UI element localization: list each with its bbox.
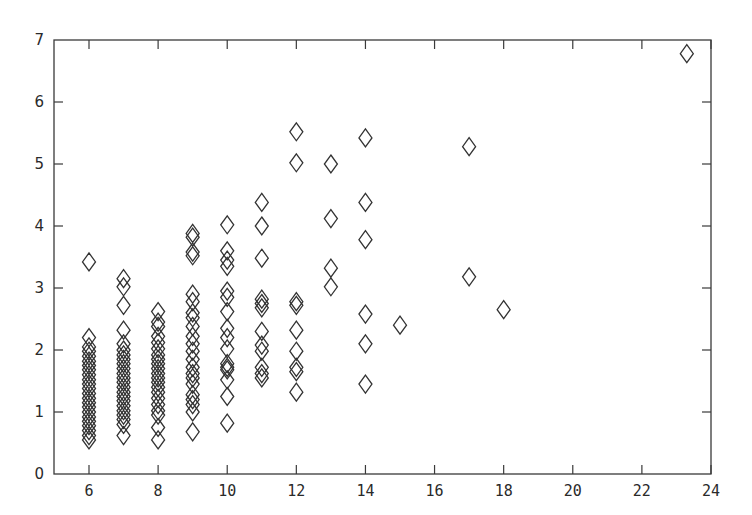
diamond-marker bbox=[359, 193, 372, 211]
diamond-marker bbox=[290, 321, 303, 339]
diamond-marker bbox=[255, 322, 268, 340]
plot-area: 681012141618202224 01234567 bbox=[0, 0, 752, 515]
x-tick-label: 14 bbox=[356, 482, 374, 500]
diamond-marker bbox=[290, 154, 303, 172]
diamond-marker bbox=[152, 431, 165, 449]
x-tick-label: 6 bbox=[84, 482, 93, 500]
diamond-marker bbox=[324, 155, 337, 173]
x-tick-label: 16 bbox=[426, 482, 444, 500]
x-tick-label: 22 bbox=[633, 482, 651, 500]
diamond-marker bbox=[463, 268, 476, 286]
diamond-marker bbox=[359, 335, 372, 353]
diamond-marker bbox=[186, 423, 199, 441]
x-tick-label: 10 bbox=[218, 482, 236, 500]
x-axis: 681012141618202224 bbox=[84, 40, 720, 500]
y-tick-label: 2 bbox=[34, 341, 44, 359]
y-tick-label: 5 bbox=[34, 155, 44, 173]
x-tick-label: 8 bbox=[154, 482, 163, 500]
diamond-marker bbox=[186, 304, 199, 322]
diamond-marker bbox=[83, 253, 96, 271]
y-tick-label: 3 bbox=[34, 279, 44, 297]
diamond-marker bbox=[186, 403, 199, 421]
diamond-marker bbox=[186, 285, 199, 303]
y-tick-label: 0 bbox=[34, 465, 44, 483]
diamond-marker bbox=[359, 231, 372, 249]
diamond-marker bbox=[359, 305, 372, 323]
diamond-marker bbox=[324, 210, 337, 228]
x-tick-label: 24 bbox=[702, 482, 720, 500]
diamond-marker bbox=[152, 396, 165, 414]
diamond-marker bbox=[359, 375, 372, 393]
diamond-marker bbox=[463, 138, 476, 156]
diamond-marker bbox=[221, 388, 234, 406]
y-tick-label: 4 bbox=[34, 217, 44, 235]
y-tick-label: 1 bbox=[34, 403, 44, 421]
diamond-marker bbox=[324, 278, 337, 296]
diamond-marker bbox=[117, 296, 130, 314]
x-tick-label: 18 bbox=[495, 482, 513, 500]
diamond-marker bbox=[394, 316, 407, 334]
diamond-marker bbox=[359, 129, 372, 147]
diamond-marker bbox=[221, 414, 234, 432]
diamond-marker bbox=[290, 123, 303, 141]
x-tick-label: 20 bbox=[564, 482, 582, 500]
diamond-marker bbox=[117, 321, 130, 339]
diamond-marker bbox=[290, 383, 303, 401]
diamond-marker bbox=[255, 336, 268, 354]
diamond-marker bbox=[324, 259, 337, 277]
diamond-marker bbox=[221, 216, 234, 234]
x-tick-label: 12 bbox=[287, 482, 305, 500]
diamond-marker bbox=[680, 45, 693, 63]
diamond-marker bbox=[255, 249, 268, 267]
y-tick-label: 6 bbox=[34, 93, 44, 111]
data-series-points bbox=[83, 45, 694, 449]
diamond-marker bbox=[497, 301, 510, 319]
scatter-chart: 681012141618202224 01234567 bbox=[0, 0, 752, 515]
diamond-marker bbox=[152, 419, 165, 437]
y-axis: 01234567 bbox=[34, 31, 711, 483]
y-tick-label: 7 bbox=[34, 31, 44, 49]
diamond-marker bbox=[255, 193, 268, 211]
diamond-marker bbox=[255, 217, 268, 235]
diamond-marker bbox=[221, 282, 234, 300]
